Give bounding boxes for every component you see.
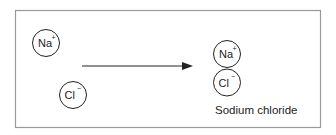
product-chloride-charge: − [231, 73, 235, 80]
reaction-arrow [82, 62, 193, 70]
chloride-symbol: Cl [65, 89, 75, 101]
reactant-chloride-ion: Cl − [60, 82, 87, 109]
sodium-charge: + [52, 34, 56, 41]
reaction-diagram: Na + Cl − Na + Cl − Sodium chloride [0, 0, 336, 135]
arrowhead-icon [182, 62, 193, 70]
product-chloride-ion: Cl − [214, 69, 241, 96]
reactant-sodium-ion: Na + [33, 30, 60, 57]
chloride-charge: − [77, 85, 81, 92]
product-sodium-ion: Na + [214, 41, 241, 68]
product-label: Sodium chloride [215, 104, 297, 116]
product-chloride-symbol: Cl [219, 77, 229, 89]
product-sodium-charge: + [233, 45, 237, 52]
